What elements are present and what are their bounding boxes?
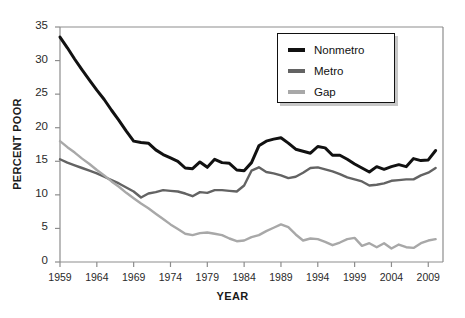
legend-item-gap: Gap: [288, 86, 336, 98]
legend-swatch-gap: [288, 90, 305, 94]
legend-label: Gap: [314, 86, 336, 98]
y-tick-label: 30: [22, 53, 48, 65]
y-tick-label: 10: [22, 187, 48, 199]
y-tick-label: 15: [22, 153, 48, 165]
legend-swatch-metro: [288, 69, 305, 73]
legend-swatch-nonmetro: [288, 48, 305, 52]
y-tick-label: 35: [22, 19, 48, 31]
legend-label: Nonmetro: [314, 44, 365, 56]
legend-item-nonmetro: Nonmetro: [288, 44, 365, 56]
y-tick-label: 25: [22, 86, 48, 98]
x-tick-label: 2009: [406, 271, 450, 283]
x-axis-title: YEAR: [0, 290, 465, 302]
y-tick-label: 5: [22, 220, 48, 232]
legend-item-metro: Metro: [288, 65, 343, 77]
y-tick-label: 20: [22, 120, 48, 132]
poverty-rate-line-chart: PERCENT POOR YEAR 05101520253035 1959196…: [0, 0, 465, 318]
legend: NonmetroMetroGap: [277, 33, 395, 103]
y-tick-label: 0: [22, 254, 48, 266]
legend-label: Metro: [314, 65, 343, 77]
series-line-gap: [60, 141, 436, 248]
